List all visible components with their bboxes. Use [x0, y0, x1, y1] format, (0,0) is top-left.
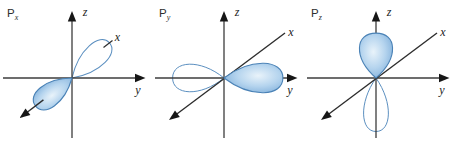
y-axis-label: y: [134, 83, 141, 97]
z-axis-label: z: [82, 5, 88, 19]
x-axis-label: x: [114, 30, 121, 44]
y-axis-arrowhead: [439, 74, 450, 82]
y-axis-arrowhead: [287, 74, 298, 82]
z-axis-arrowhead: [68, 11, 76, 22]
z-axis-arrowhead: [372, 11, 380, 22]
x-axis-arrowhead: [20, 109, 31, 119]
pz-orbital-diagram: zyx: [304, 0, 456, 147]
y-axis-label: y: [438, 83, 445, 97]
x-axis-label: x: [287, 25, 294, 39]
py-orbital-diagram: zyx: [152, 0, 304, 147]
z-axis-label: z: [386, 5, 392, 19]
panel-pz: Pz zyx: [304, 0, 456, 147]
panel-py: Py zyx: [152, 0, 304, 147]
y-axis-arrowhead: [135, 74, 146, 82]
right-lobe-filled: [224, 63, 283, 92]
x-axis-label: x: [439, 25, 446, 39]
z-axis-label: z: [234, 5, 240, 19]
x-axis-arrowhead: [169, 111, 180, 121]
px-orbital-diagram: zyx: [0, 0, 152, 147]
p-orbitals-figure: Px zyx Py zyx Pz zyx: [0, 0, 456, 147]
panel-px: Px zyx: [0, 0, 152, 147]
y-axis-label: y: [286, 83, 293, 97]
z-axis-arrowhead: [220, 11, 228, 22]
x-axis-arrowhead: [321, 111, 332, 121]
up-lobe-filled: [359, 33, 392, 78]
